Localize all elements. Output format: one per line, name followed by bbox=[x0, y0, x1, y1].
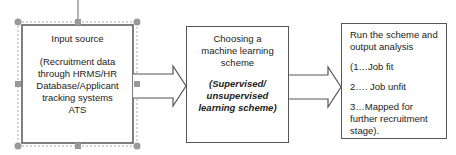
resize-handle-nw[interactable] bbox=[15, 19, 22, 26]
box1-line: ATS bbox=[22, 104, 133, 116]
output-analysis-box[interactable]: Run the scheme and output analysis (1…Jo… bbox=[341, 23, 447, 139]
input-source-text: Input source (Recruitment data through H… bbox=[22, 25, 133, 143]
box1-line: Database/Applicant bbox=[22, 80, 133, 92]
box1-line: tracking systems bbox=[22, 92, 133, 104]
box3-last-item-line: 3…Mapped for bbox=[350, 101, 446, 113]
box2-title-line: machine learning bbox=[187, 45, 288, 57]
box3-item: 2…. Job unfit bbox=[350, 81, 446, 93]
resize-handle-ne[interactable] bbox=[134, 19, 141, 26]
box3-last-item-line: further recruitment bbox=[350, 113, 446, 125]
box3-title-line: output analysis bbox=[350, 41, 446, 53]
arrow-1[interactable] bbox=[133, 66, 186, 106]
box3-last-item-line: stage). bbox=[350, 125, 446, 137]
box3-title-line: Run the scheme and bbox=[350, 29, 446, 41]
resize-handle-se[interactable] bbox=[134, 143, 141, 150]
box1-title: Input source bbox=[22, 33, 133, 45]
ml-scheme-box[interactable]: Choosing a machine learning scheme (Supe… bbox=[186, 26, 289, 143]
box2-title-line: scheme bbox=[187, 57, 288, 69]
arrow-2[interactable] bbox=[288, 67, 341, 107]
box2-italic-line: (Supervised/ bbox=[187, 78, 288, 90]
box3-item: (1…Job fit bbox=[350, 61, 446, 73]
resize-handle-sw[interactable] bbox=[15, 143, 22, 150]
box2-italic-line: learning scheme) bbox=[187, 102, 288, 114]
resize-handle-e[interactable] bbox=[134, 81, 140, 87]
resize-handle-w[interactable] bbox=[15, 81, 21, 87]
resize-handle-s[interactable] bbox=[75, 143, 81, 149]
box2-title-line: Choosing a bbox=[187, 33, 288, 45]
box1-line: through HRMS/HR bbox=[22, 68, 133, 80]
box2-italic-line: unsupervised bbox=[187, 90, 288, 102]
box1-line: (Recruitment data bbox=[22, 56, 133, 68]
